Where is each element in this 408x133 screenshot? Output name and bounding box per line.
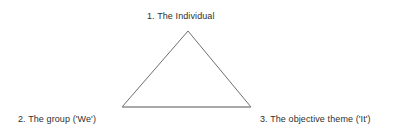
label-individual: 1. The Individual <box>147 11 215 22</box>
label-objective-theme-it: 3. The objective theme ('It') <box>260 114 371 125</box>
triangle-outline <box>122 31 251 107</box>
diagram-canvas: 1. The Individual 2. The group ('We') 3.… <box>0 0 408 133</box>
label-group-we: 2. The group ('We') <box>18 114 96 125</box>
